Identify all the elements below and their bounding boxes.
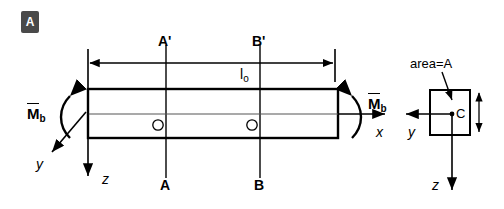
section-label-a: A — [160, 178, 170, 192]
axis-label-z-section: z — [432, 178, 439, 192]
moment-left-subscript: b — [40, 113, 46, 124]
beam-centroid-circles — [153, 120, 257, 130]
cross-section-area-label: area=A — [410, 57, 452, 70]
span-length-subscript: o — [243, 73, 249, 84]
section-label-b: B — [254, 178, 264, 192]
figure-canvas: A lo A' B' A B O O Mb Mb y z x area=A C … — [0, 0, 504, 209]
moment-label-left: Mb — [27, 106, 46, 124]
panel-badge-label: A — [26, 15, 35, 29]
section-label-a-prime: A' — [158, 34, 171, 48]
moment-arc-right — [352, 96, 361, 138]
span-dimension — [88, 49, 335, 82]
span-length-label: lo — [240, 67, 249, 84]
area-leader-line — [442, 72, 452, 100]
moment-label-right: Mb — [368, 96, 387, 114]
moment-right-subscript: b — [381, 103, 387, 114]
axis-label-y-section: y — [408, 125, 415, 139]
moment-left-symbol: M — [27, 106, 40, 121]
section-label-b-prime: B' — [252, 34, 265, 48]
axis-label-y-beam: y — [36, 157, 43, 171]
axis-y-left — [52, 112, 86, 152]
cross-section-centroid-label: C — [456, 107, 465, 120]
axis-label-x-beam: x — [376, 125, 383, 139]
moment-right-symbol: M — [368, 96, 381, 111]
axis-label-z-beam: z — [102, 172, 109, 186]
diagram-vector-layer — [0, 0, 504, 209]
panel-badge: A — [21, 11, 39, 33]
